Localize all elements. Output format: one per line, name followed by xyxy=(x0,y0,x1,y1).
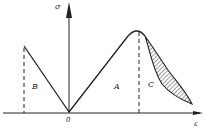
region-label-b: B xyxy=(31,82,38,91)
x-axis-arrow-icon xyxy=(193,111,203,115)
origin-label: 0 xyxy=(66,116,71,124)
hatched-region-c xyxy=(145,36,192,104)
x-axis-label: ε xyxy=(194,120,198,128)
y-axis-arrow-icon xyxy=(66,2,72,18)
region-label-c: C xyxy=(148,80,154,89)
region-label-a: A xyxy=(113,82,120,91)
y-axis-label: σ xyxy=(55,2,61,11)
curve-branch-b xyxy=(24,46,69,112)
curve-branch-a xyxy=(69,31,145,112)
stress-strain-diagram: σ ε 0 B A C xyxy=(0,0,205,135)
